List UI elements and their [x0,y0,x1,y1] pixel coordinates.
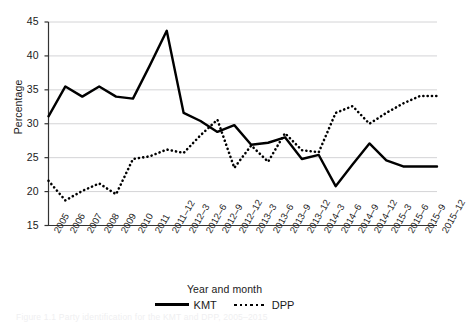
page-watermark-caption: Figure 1.1 Party identification for the … [16,312,268,322]
chart-legend: KMT DPP [0,299,449,311]
y-tick-label: 40 [9,50,39,61]
legend-item-dpp: DPP [233,299,295,311]
y-tick-label: 35 [9,84,39,95]
series-line-dpp [49,96,438,200]
legend-line-dotted-icon [233,300,267,310]
y-tick-label: 25 [9,152,39,163]
y-axis-title: Percentage [12,52,24,162]
series-line-kmt [49,31,438,186]
legend-label-dpp: DPP [272,299,295,311]
legend-item-kmt: KMT [155,299,217,311]
y-tick-label: 45 [9,16,39,27]
legend-line-solid-icon [155,300,189,310]
y-tick-label: 30 [9,118,39,129]
legend-label-kmt: KMT [194,299,217,311]
y-tick-label: 15 [9,220,39,231]
x-axis-title: Year and month [0,283,449,295]
gridlines [49,22,438,226]
y-tick-label: 20 [9,186,39,197]
